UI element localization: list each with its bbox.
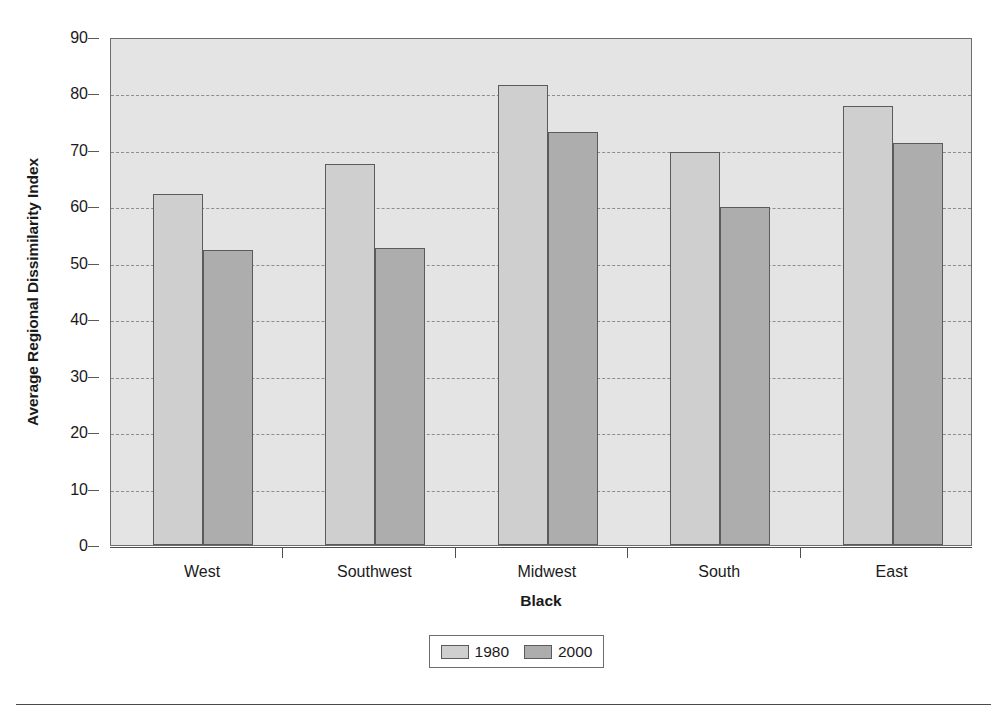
y-tick-mark xyxy=(88,433,99,434)
x-tick-mark xyxy=(800,547,801,558)
y-tick-label: 70 xyxy=(42,143,88,159)
x-tick-mark xyxy=(282,547,283,558)
legend-entry-1980[interactable]: 1980 xyxy=(441,643,509,661)
chart-legend: 1980 2000 xyxy=(429,635,604,668)
legend-swatch-1980-icon xyxy=(441,645,469,659)
legend-swatch-2000-icon xyxy=(524,645,552,659)
y-tick-mark xyxy=(88,94,99,95)
x-axis-title: Black xyxy=(110,592,972,610)
y-tick-label: 80 xyxy=(42,86,88,102)
y-tick-mark xyxy=(88,490,99,491)
legend-label-1980: 1980 xyxy=(475,643,509,661)
bar-south-2000 xyxy=(720,207,770,545)
y-tick-label: 30 xyxy=(42,369,88,385)
bar-east-2000 xyxy=(893,143,943,545)
y-tick-label: 10 xyxy=(42,482,88,498)
y-tick-label: 50 xyxy=(42,256,88,272)
bottom-divider xyxy=(16,704,991,705)
y-tick-label: 20 xyxy=(42,425,88,441)
bar-west-2000 xyxy=(203,250,253,545)
x-tick-label-southwest: Southwest xyxy=(284,563,464,581)
bar-midwest-1980 xyxy=(498,85,548,545)
bar-midwest-2000 xyxy=(548,132,598,545)
bar-south-1980 xyxy=(670,152,720,545)
y-tick-mark xyxy=(88,546,99,547)
y-tick-label: 0 xyxy=(42,538,88,554)
plot-inner xyxy=(111,39,971,545)
y-tick-mark xyxy=(88,377,99,378)
y-tick-label: 40 xyxy=(42,312,88,328)
x-tick-mark xyxy=(627,547,628,558)
y-tick-mark xyxy=(88,207,99,208)
legend-entry-2000[interactable]: 2000 xyxy=(524,643,592,661)
x-tick-label-south: South xyxy=(629,563,809,581)
plot-area xyxy=(110,38,972,546)
x-tick-label-west: West xyxy=(112,563,292,581)
y-tick-label: 60 xyxy=(42,199,88,215)
x-tick-mark xyxy=(455,547,456,558)
x-tick-label-midwest: Midwest xyxy=(457,563,637,581)
bar-chart-figure: Average Regional Dissimilarity Index 010… xyxy=(0,0,1007,721)
bar-southwest-1980 xyxy=(325,164,375,545)
bar-west-1980 xyxy=(153,194,203,545)
y-tick-mark xyxy=(88,320,99,321)
y-tick-label: 90 xyxy=(42,30,88,46)
bar-east-1980 xyxy=(843,106,893,545)
x-tick-label-east: East xyxy=(802,563,982,581)
x-axis-line xyxy=(110,547,972,548)
y-tick-mark xyxy=(88,151,99,152)
y-tick-mark xyxy=(88,264,99,265)
y-axis-ticks: 0102030405060708090 xyxy=(36,0,88,721)
bar-southwest-2000 xyxy=(375,248,425,545)
legend-label-2000: 2000 xyxy=(558,643,592,661)
y-tick-mark xyxy=(88,38,99,39)
